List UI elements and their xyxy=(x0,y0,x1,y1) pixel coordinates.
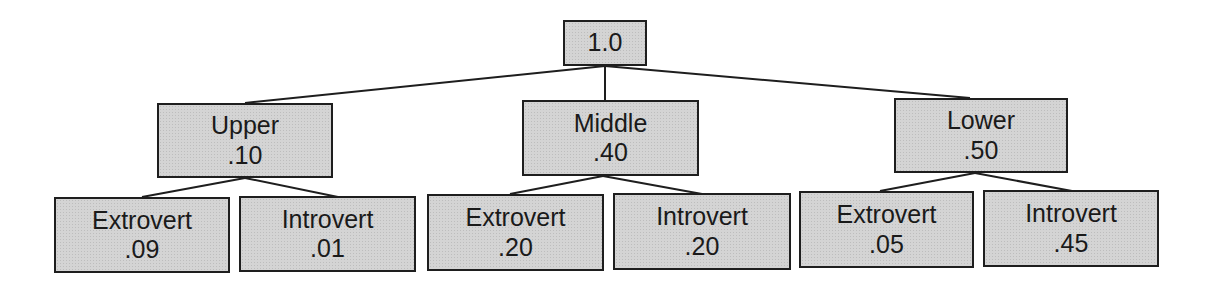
node-value: .50 xyxy=(964,136,999,166)
node-label: Upper xyxy=(211,111,279,141)
root-node: 1.0 xyxy=(563,20,647,66)
node-label: Introvert xyxy=(282,205,374,235)
node-upper: Upper .10 xyxy=(157,103,333,178)
node-value: .40 xyxy=(593,138,628,168)
root-value: 1.0 xyxy=(588,28,623,58)
node-lower: Lower .50 xyxy=(894,98,1068,173)
node-value: .20 xyxy=(685,232,720,262)
node-value: .45 xyxy=(1054,229,1089,259)
node-label: Introvert xyxy=(656,202,748,232)
node-label: Middle xyxy=(574,109,648,139)
edge-middle-introvert xyxy=(603,176,702,194)
node-middle-extrovert: Extrovert .20 xyxy=(427,194,604,271)
node-upper-extrovert: Extrovert .09 xyxy=(54,197,230,273)
edge-lower-extrovert xyxy=(880,173,975,191)
node-label: Extrovert xyxy=(836,200,936,230)
edge-upper-extrovert xyxy=(142,178,245,197)
node-label: Extrovert xyxy=(92,206,192,236)
node-label: Introvert xyxy=(1025,199,1117,229)
edge-root-upper xyxy=(245,66,605,103)
node-value: .05 xyxy=(869,230,904,260)
node-value: .10 xyxy=(228,141,263,171)
node-middle: Middle .40 xyxy=(522,100,699,176)
node-label: Lower xyxy=(947,106,1015,136)
edge-lower-introvert xyxy=(975,173,1072,191)
edge-upper-introvert xyxy=(245,178,338,197)
node-value: .09 xyxy=(125,235,160,265)
node-value: .20 xyxy=(498,233,533,263)
edge-root-lower xyxy=(605,66,970,98)
node-upper-introvert: Introvert .01 xyxy=(239,196,416,272)
node-lower-introvert: Introvert .45 xyxy=(983,190,1159,267)
node-lower-extrovert: Extrovert .05 xyxy=(799,191,974,268)
node-middle-introvert: Introvert .20 xyxy=(613,193,791,270)
node-value: .01 xyxy=(310,234,345,264)
edge-middle-extrovert xyxy=(510,176,603,194)
node-label: Extrovert xyxy=(465,203,565,233)
